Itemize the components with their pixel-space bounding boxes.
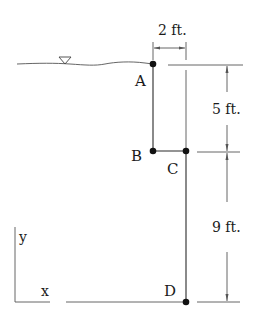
width-arrow-right-icon	[179, 47, 185, 50]
y-axis-label: y	[18, 229, 27, 245]
lower-dim-label: 9 ft.	[212, 219, 241, 235]
point-c	[183, 148, 190, 155]
upper-arrow-top-icon	[226, 66, 229, 73]
label-a: A	[134, 72, 146, 90]
gate-diagram: 2 ft. 5 ft. 9 ft. A B C D y x	[0, 0, 262, 322]
label-d: D	[164, 282, 176, 300]
point-d	[183, 299, 190, 306]
x-axis-label: x	[41, 283, 49, 299]
lower-arrow-top-icon	[226, 153, 229, 160]
water-surface-line	[17, 62, 153, 65]
point-a	[150, 61, 157, 68]
width-arrow-left-icon	[154, 47, 160, 50]
upper-dim-label: 5 ft.	[212, 101, 241, 117]
lower-arrow-bottom-icon	[226, 294, 229, 301]
label-c: C	[167, 160, 178, 178]
upper-arrow-bottom-icon	[226, 144, 229, 151]
width-dim-label: 2 ft.	[158, 22, 187, 38]
water-level-triangle-icon	[59, 57, 71, 64]
point-b	[150, 148, 157, 155]
label-b: B	[131, 147, 142, 165]
